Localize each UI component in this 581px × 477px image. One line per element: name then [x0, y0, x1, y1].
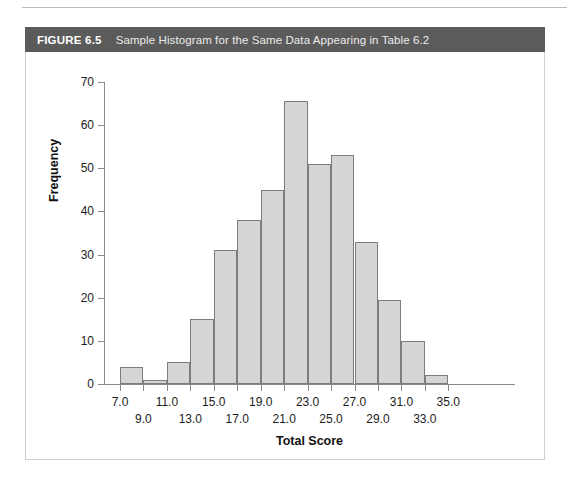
y-tick-label: 70	[81, 75, 94, 89]
x-tick-15.0	[214, 385, 215, 391]
histogram-bar	[425, 375, 448, 384]
x-tick-label: 19.0	[249, 395, 272, 409]
x-tick-25.0	[331, 385, 332, 391]
y-tick-60: 60	[98, 125, 104, 126]
figure-caption: Sample Histogram for the Same Data Appea…	[116, 34, 430, 46]
histogram-bar	[378, 300, 401, 384]
x-tick-35.0	[448, 385, 449, 391]
x-tick-label: 15.0	[202, 395, 225, 409]
histogram-bar	[308, 164, 331, 384]
y-tick-label: 0	[87, 377, 94, 391]
y-tick-10: 10	[98, 341, 104, 342]
x-tick-label: 13.0	[179, 412, 202, 426]
x-tick-label: 35.0	[437, 395, 460, 409]
y-tick-0: 0	[98, 384, 104, 385]
histogram-bar	[331, 155, 354, 384]
y-tick-50: 50	[98, 168, 104, 169]
x-tick-27.0	[355, 385, 356, 391]
x-tick-13.0	[190, 385, 191, 391]
x-tick-17.0	[237, 385, 238, 391]
histogram-bar	[284, 101, 307, 384]
histogram-plot: Frequency 010203040506070 7.09.011.013.0…	[25, 52, 545, 460]
x-tick-label: 25.0	[319, 412, 342, 426]
x-axis-title: Total Score	[104, 434, 515, 448]
y-tick-70: 70	[98, 82, 104, 83]
x-tick-label: 7.0	[112, 395, 129, 409]
y-tick-20: 20	[98, 298, 104, 299]
x-tick-31.0	[401, 385, 402, 391]
x-tick-21.0	[284, 385, 285, 391]
y-tick-label: 30	[81, 248, 94, 262]
y-tick-label: 20	[81, 291, 94, 305]
y-tick-30: 30	[98, 255, 104, 256]
x-tick-19.0	[261, 385, 262, 391]
y-tick-label: 60	[81, 118, 94, 132]
figure-number-label: FIGURE 6.5	[37, 34, 102, 46]
histogram-bar	[214, 250, 237, 384]
page-top-rule	[22, 7, 567, 8]
x-tick-label: 17.0	[226, 412, 249, 426]
x-axis-line	[104, 384, 515, 385]
histogram-bar	[143, 380, 166, 384]
histogram-bar	[167, 362, 190, 384]
x-tick-label: 11.0	[156, 395, 178, 409]
x-tick-29.0	[378, 385, 379, 391]
x-tick-label: 29.0	[366, 412, 389, 426]
x-tick-7.0	[120, 385, 121, 391]
histogram-bar	[355, 242, 378, 384]
histogram-bar	[120, 367, 143, 384]
x-tick-9.0	[143, 385, 144, 391]
y-tick-label: 50	[81, 161, 94, 175]
histogram-bar	[190, 319, 213, 384]
x-tick-11.0	[167, 385, 168, 391]
figure-header: FIGURE 6.5 Sample Histogram for the Same…	[25, 27, 545, 52]
histogram-bar	[261, 190, 284, 384]
y-axis-title: Frequency	[47, 139, 61, 202]
y-axis-line	[104, 82, 105, 385]
x-tick-33.0	[425, 385, 426, 391]
histogram-bar	[237, 220, 260, 384]
x-tick-23.0	[308, 385, 309, 391]
x-tick-label: 31.0	[390, 395, 413, 409]
x-tick-label: 33.0	[413, 412, 436, 426]
x-tick-label: 27.0	[343, 395, 366, 409]
x-tick-label: 23.0	[296, 395, 319, 409]
histogram-bar	[401, 341, 424, 384]
y-tick-label: 40	[81, 204, 94, 218]
y-tick-label: 10	[81, 334, 94, 348]
y-tick-40: 40	[98, 211, 104, 212]
x-tick-label: 21.0	[272, 412, 295, 426]
x-tick-label: 9.0	[135, 412, 152, 426]
